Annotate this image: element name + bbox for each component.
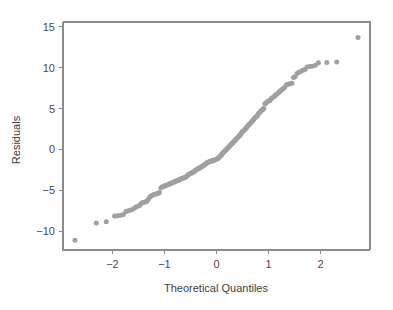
x-tick-label: 0 bbox=[213, 258, 219, 270]
data-point bbox=[157, 190, 162, 195]
x-tick-label: 2 bbox=[318, 258, 324, 270]
y-tick-label: −5 bbox=[42, 184, 55, 196]
figure-background bbox=[0, 0, 393, 310]
data-point bbox=[289, 81, 294, 86]
qq-plot-canvas: −10−5051015 −2−1012 Theoretical Quantile… bbox=[0, 0, 393, 310]
data-point bbox=[316, 60, 321, 65]
data-point bbox=[94, 221, 99, 226]
y-tick-label: −10 bbox=[36, 225, 55, 237]
data-point bbox=[104, 219, 109, 224]
y-axis-title: Residuals bbox=[10, 115, 22, 164]
y-tick-label: 5 bbox=[49, 103, 55, 115]
x-tick-label: −2 bbox=[106, 258, 119, 270]
x-tick-label: −1 bbox=[158, 258, 171, 270]
x-axis-title: Theoretical Quantiles bbox=[164, 282, 268, 294]
data-point bbox=[334, 60, 339, 65]
y-tick-label: 0 bbox=[49, 143, 55, 155]
y-tick-label: 15 bbox=[43, 21, 55, 33]
qq-plot-figure: −10−5051015 −2−1012 Theoretical Quantile… bbox=[0, 0, 393, 310]
y-tick-label: 10 bbox=[43, 62, 55, 74]
data-point bbox=[356, 35, 361, 40]
data-point bbox=[72, 238, 77, 243]
data-point bbox=[324, 60, 329, 65]
data-point bbox=[261, 106, 266, 111]
x-tick-label: 1 bbox=[265, 258, 271, 270]
